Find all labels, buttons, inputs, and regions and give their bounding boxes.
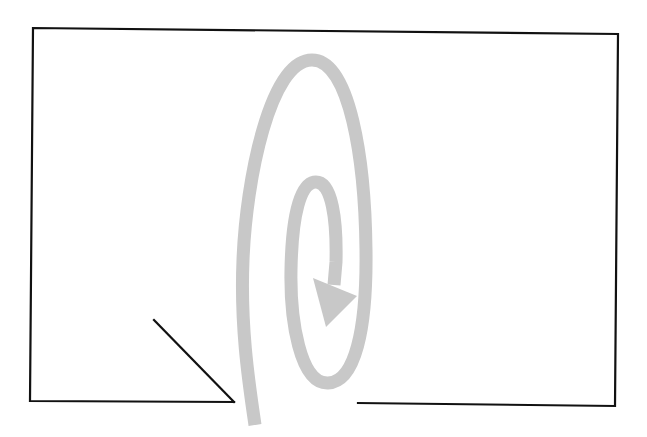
- frame-left-top-right-edges: [30, 28, 618, 406]
- frame-outline: [30, 28, 618, 406]
- arrowhead-icon: [313, 278, 357, 327]
- spiral-arrow: [242, 60, 366, 425]
- spiral-diagram: [0, 0, 647, 437]
- spiral-path: [242, 60, 366, 425]
- diagonal-line: [154, 320, 234, 402]
